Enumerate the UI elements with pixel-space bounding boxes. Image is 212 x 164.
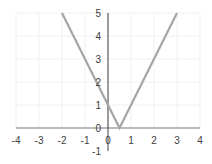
chart: -4-3-2-101234 -1012345 — [0, 0, 212, 164]
x-tick-label: -2 — [58, 135, 67, 146]
y-tick-label: 1 — [95, 100, 101, 111]
y-tick-label: 3 — [95, 54, 101, 65]
x-tick-label: 0 — [105, 135, 111, 146]
series-line — [62, 13, 177, 128]
x-tick-label: -3 — [35, 135, 44, 146]
y-tick-label: 5 — [95, 8, 101, 19]
x-tick-label: -1 — [81, 135, 90, 146]
x-tick-label: 1 — [128, 135, 134, 146]
y-tick-label: 2 — [95, 77, 101, 88]
y-tick-label: 4 — [95, 31, 101, 42]
y-tick-label: -1 — [92, 146, 101, 157]
y-tick-label: 0 — [95, 123, 101, 134]
x-tick-label: -4 — [12, 135, 21, 146]
x-tick-labels: -4-3-2-101234 — [12, 135, 204, 146]
x-tick-label: 3 — [174, 135, 180, 146]
x-tick-label: 2 — [151, 135, 157, 146]
x-tick-label: 4 — [197, 135, 203, 146]
